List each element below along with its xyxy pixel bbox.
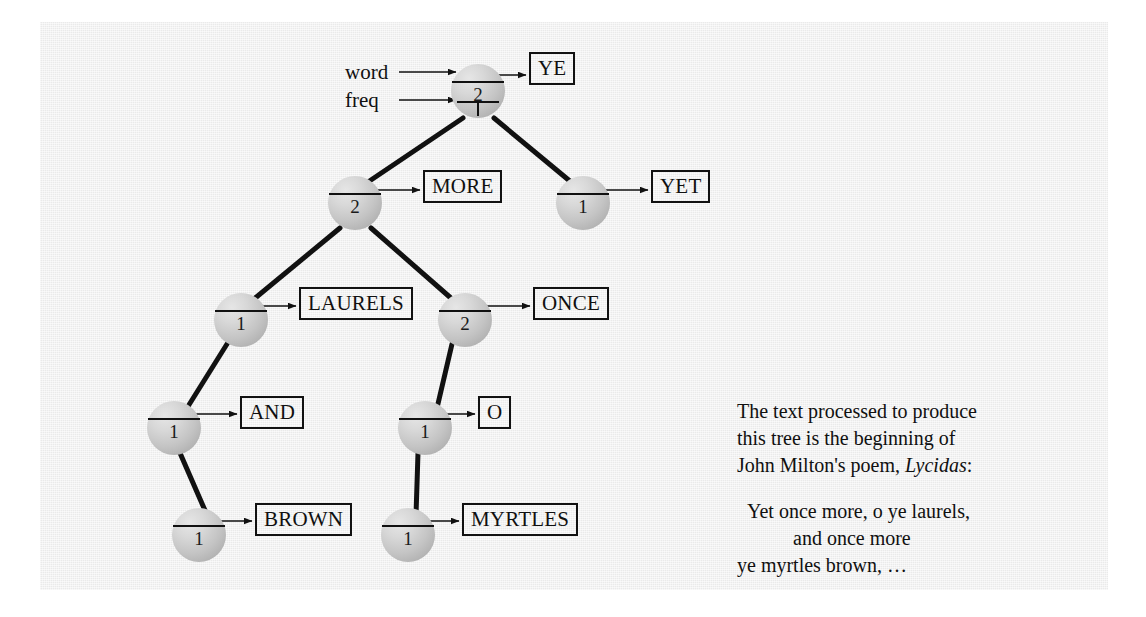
- word-label: word: [345, 60, 388, 84]
- node-freq-value: 1: [214, 313, 268, 335]
- poem-line-3: ye myrtles brown, …: [737, 552, 1037, 579]
- freq-label: freq: [345, 88, 379, 112]
- tree-node-and[interactable]: 1: [147, 401, 201, 455]
- node-divider: [329, 193, 381, 195]
- word-box-once[interactable]: ONCE: [533, 287, 609, 320]
- word-box-o[interactable]: O: [478, 396, 511, 429]
- annotation-arrow-group: [399, 72, 456, 100]
- tree-edge-laurels-to-and: [187, 344, 227, 408]
- tree-node-yet[interactable]: 1: [556, 176, 610, 230]
- tree-node-o[interactable]: 1: [398, 401, 452, 455]
- node-freq-value: 1: [398, 421, 452, 443]
- poem-line-2: and once more: [737, 525, 1037, 552]
- tree-edge-once-to-o: [437, 344, 452, 408]
- tree-edge-and-to-brown: [180, 453, 207, 515]
- node-divider: [173, 525, 225, 527]
- node-child-pointer-stem: [477, 102, 479, 116]
- word-box-and[interactable]: AND: [240, 396, 304, 429]
- node-divider: [399, 418, 451, 420]
- tree-node-laurels[interactable]: 1: [214, 293, 268, 347]
- node-divider: [382, 525, 434, 527]
- attribution-prefix: John Milton's poem,: [737, 454, 905, 476]
- word-box-yet[interactable]: YET: [651, 170, 710, 203]
- node-freq-value: 1: [381, 528, 435, 550]
- tree-node-once[interactable]: 2: [438, 293, 492, 347]
- caption-line-2: this tree is the beginning of: [737, 425, 1037, 452]
- poem-title: Lycidas: [905, 454, 967, 476]
- caption-block: The text processed to produce this tree …: [737, 398, 1037, 579]
- word-box-ye[interactable]: YE: [529, 52, 575, 85]
- node-divider: [148, 418, 200, 420]
- word-box-more[interactable]: MORE: [423, 170, 502, 203]
- word-box-myrtles[interactable]: MYRTLES: [462, 503, 578, 536]
- node-freq-value: 1: [556, 196, 610, 218]
- tree-node-brown[interactable]: 1: [172, 508, 226, 562]
- node-divider: [557, 193, 609, 195]
- poem-excerpt: Yet once more, o ye laurels, and once mo…: [737, 498, 1037, 579]
- poem-line-1: Yet once more, o ye laurels,: [737, 498, 1037, 525]
- caption-line-1: The text processed to produce: [737, 398, 1037, 425]
- attribution-suffix: :: [967, 454, 973, 476]
- tree-node-more[interactable]: 2: [328, 176, 382, 230]
- node-freq-value: 1: [172, 528, 226, 550]
- word-box-laurels[interactable]: LAURELS: [299, 287, 413, 320]
- node-freq-value: 2: [438, 313, 492, 335]
- node-freq-value: 2: [328, 196, 382, 218]
- tree-edge-ye-to-yet: [494, 118, 571, 182]
- word-box-brown[interactable]: BROWN: [255, 503, 352, 536]
- tree-node-ye[interactable]: 2: [451, 64, 505, 118]
- node-divider: [452, 81, 504, 83]
- tree-node-myrtles[interactable]: 1: [381, 508, 435, 562]
- node-freq-value: 1: [147, 421, 201, 443]
- diagram-page: word freq 2YE2MORE1YET1LAURELS2ONCE1AND1…: [0, 0, 1146, 617]
- tree-edge-o-to-myrtles: [416, 453, 418, 515]
- node-divider: [215, 310, 267, 312]
- node-divider: [439, 310, 491, 312]
- caption-attribution: John Milton's poem, Lycidas:: [737, 452, 1037, 479]
